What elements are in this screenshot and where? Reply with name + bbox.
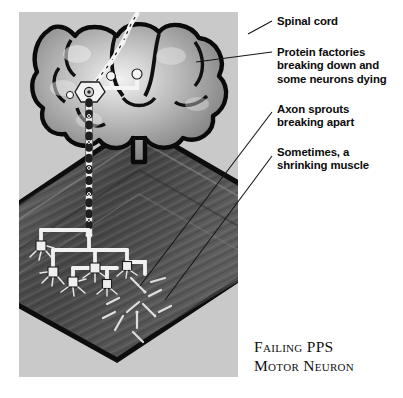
label-spinal-cord: Spinal cord [277,15,338,28]
figure-title: Failing PPS Motor Neuron [254,337,399,375]
figure-title-line-2: Motor Neuron [254,356,399,375]
figure-root: Spinal cord Protein factories breaking d… [0,0,403,398]
illustration-panel [19,12,238,377]
figure-title-line-1: Failing PPS [254,337,399,356]
leader-line-spinal-cord [248,21,272,34]
illustration-svg [19,12,238,377]
myelinated-axon [86,102,93,234]
label-protein-factories: Protein factories breaking down and some… [277,46,387,86]
label-axon-sprouts: Axon sprouts breaking apart [277,103,354,130]
label-shrinking-muscle: Sometimes, a shrinking muscle [277,146,369,173]
